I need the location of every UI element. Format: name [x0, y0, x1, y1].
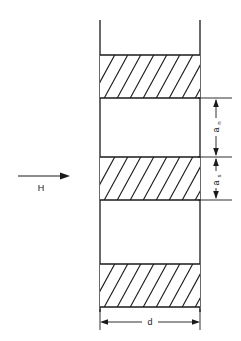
d-arrowhead-left-icon: [100, 319, 108, 325]
a-n-arrowhead-up-icon: [213, 99, 219, 107]
a-n-label-subscript: n: [216, 121, 222, 124]
d-arrowhead-right-icon: [192, 319, 200, 325]
dimension-a-s: a s: [198, 158, 232, 200]
a-n-arrowhead-down-icon: [213, 148, 219, 156]
a-s-arrowhead-up-icon: [213, 158, 219, 166]
band-2: [88, 151, 222, 206]
a-s-label-subscript: s: [216, 175, 222, 178]
a-n-label-base: a: [211, 127, 221, 132]
field-arrow-head-icon: [60, 173, 70, 180]
d-label: d: [147, 317, 152, 327]
dimension-d: d: [100, 309, 200, 330]
technical-diagram: H a n a s: [0, 0, 241, 341]
figure-canvas: H a n a s: [0, 0, 241, 341]
band-1: [88, 49, 222, 104]
a-s-label-base: a: [211, 180, 221, 185]
band-3: [88, 258, 222, 313]
field-arrow-label: H: [38, 183, 45, 193]
dimension-a-n: a n: [198, 98, 232, 157]
field-arrow-group: H: [18, 173, 70, 193]
a-s-arrowhead-down-icon: [213, 191, 219, 199]
